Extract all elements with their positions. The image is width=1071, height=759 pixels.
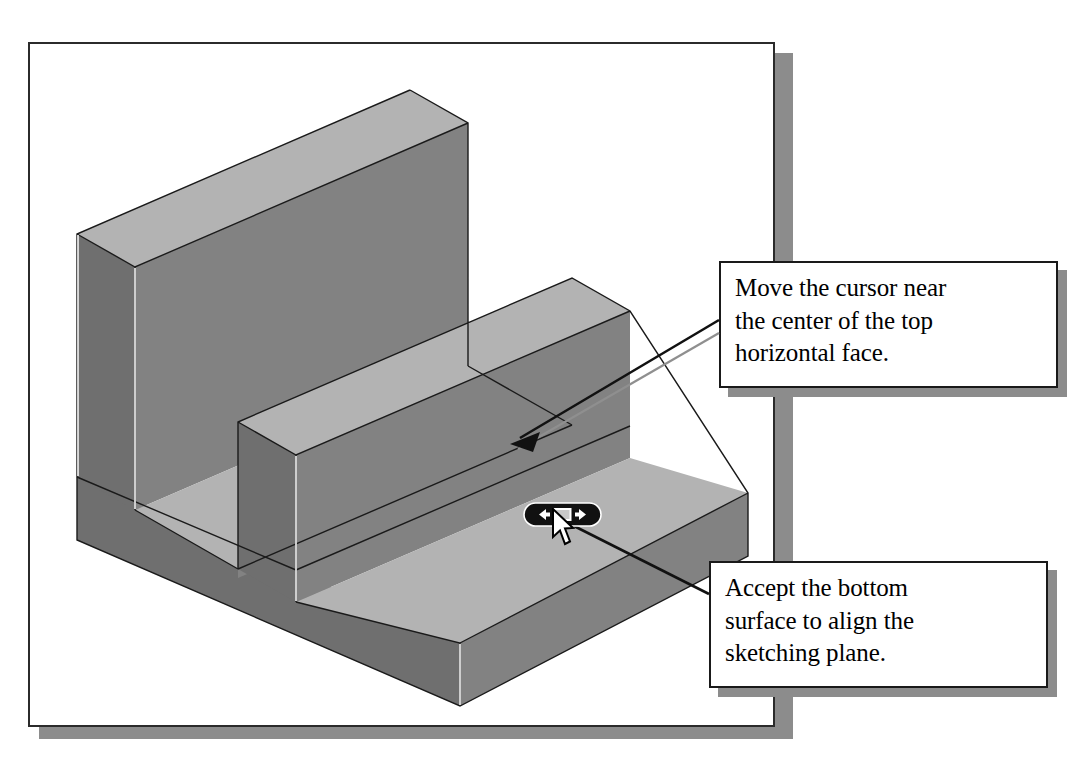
figure-page: .top { fill: #b3b3b3; } .front{ fill: #8… <box>0 0 1071 759</box>
callout-move-cursor: Move the cursor near the center of the t… <box>719 261 1058 388</box>
mouse-pointer <box>551 508 577 548</box>
callout-accept-surface-line-2: surface to align the <box>725 605 1036 638</box>
callout-accept-surface-line-3: sketching plane. <box>725 637 1036 670</box>
callout-move-cursor-line-2: the center of the top <box>735 305 1046 338</box>
callout-accept-surface-line-1: Accept the bottom <box>725 572 1036 605</box>
callout-move-cursor-line-3: horizontal face. <box>735 337 1046 370</box>
callout-move-cursor-line-1: Move the cursor near <box>735 272 1046 305</box>
figure-frame <box>28 42 775 727</box>
callout-accept-surface: Accept the bottom surface to align the s… <box>709 561 1048 688</box>
pointer-arrow-shape <box>553 509 573 544</box>
